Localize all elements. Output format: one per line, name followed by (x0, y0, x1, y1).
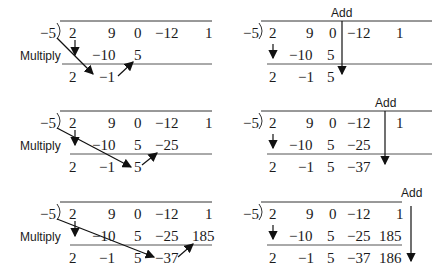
coef-0: 2 (69, 116, 77, 131)
row3-3: −37 (347, 251, 370, 266)
coef-1: 9 (306, 116, 314, 131)
row2-4: 185 (192, 229, 215, 244)
row3-1: −1 (99, 251, 115, 266)
row2-1: −10 (92, 229, 115, 244)
coef-0: 2 (269, 26, 277, 41)
row3-2: 5 (134, 251, 142, 266)
multiply-label: Multiply (20, 50, 61, 62)
row3-3: −37 (155, 251, 178, 266)
row2-3: −25 (155, 138, 178, 153)
coef-3: −12 (347, 116, 370, 131)
row2-2: 5 (134, 138, 142, 153)
divisor: −5 (40, 26, 56, 41)
divisor: −5 (243, 207, 259, 222)
multiply-label: Multiply (20, 140, 61, 152)
add-label: Add (331, 7, 352, 19)
row2-3: −25 (347, 229, 370, 244)
row2-2: 5 (327, 229, 335, 244)
coef-2: 0 (134, 207, 142, 222)
coef-1: 9 (306, 26, 314, 41)
coef-4: 1 (205, 26, 213, 41)
row3-0: 2 (269, 160, 277, 175)
row2-2: 5 (327, 138, 335, 153)
coef-4: 1 (396, 26, 404, 41)
coef-0: 2 (269, 116, 277, 131)
coef-1: 9 (108, 26, 116, 41)
row2-2: 5 (134, 48, 142, 63)
row3-2: 5 (134, 160, 142, 175)
row2-1: −10 (289, 48, 312, 63)
coef-3: −12 (155, 207, 178, 222)
coef-3: −12 (155, 26, 178, 41)
row3-1: −1 (298, 160, 314, 175)
coef-0: 2 (269, 207, 277, 222)
coef-1: 9 (306, 207, 314, 222)
coef-1: 9 (108, 207, 116, 222)
coef-3: −12 (347, 207, 370, 222)
add-label: Add (401, 187, 422, 199)
row3-0: 2 (269, 70, 277, 85)
row3-1: −1 (298, 70, 314, 85)
row3-4: 186 (379, 251, 402, 266)
panel-step1-multiply: −5 2 9 0 −12 1 Multiply −10 5 2 −1 (0, 0, 219, 92)
coef-2: 0 (134, 26, 142, 41)
coef-0: 2 (69, 26, 77, 41)
add-label: Add (375, 97, 396, 109)
panel-step3-multiply: −5 2 9 0 −12 1 Multiply −10 5 −25 185 2 … (0, 181, 219, 273)
divisor: −5 (243, 116, 259, 131)
row2-1: −10 (92, 138, 115, 153)
row2-2: 5 (327, 48, 335, 63)
coef-4: 1 (396, 116, 404, 131)
divisor: −5 (40, 116, 56, 131)
row3-0: 2 (69, 251, 77, 266)
coef-2: 0 (329, 26, 337, 41)
coef-4: 1 (396, 207, 404, 222)
row2-1: −10 (289, 229, 312, 244)
row3-2: 5 (327, 251, 335, 266)
multiply-label: Multiply (20, 231, 61, 243)
row3-3: −37 (347, 160, 370, 175)
row3-1: −1 (298, 251, 314, 266)
coef-4: 1 (205, 207, 213, 222)
row3-2: 5 (327, 70, 335, 85)
row3-0: 2 (269, 251, 277, 266)
row3-2: 5 (327, 160, 335, 175)
row2-3: −25 (155, 229, 178, 244)
divisor: −5 (243, 26, 259, 41)
coef-0: 2 (69, 207, 77, 222)
row2-2: 5 (134, 229, 142, 244)
coef-3: −12 (155, 116, 178, 131)
divisor: −5 (40, 207, 56, 222)
row3-0: 2 (69, 160, 77, 175)
row3-0: 2 (69, 70, 77, 85)
coef-2: 0 (329, 207, 337, 222)
row3-1: −1 (99, 160, 115, 175)
row2-1: −10 (92, 48, 115, 63)
row3-1: −1 (99, 70, 115, 85)
panel-step2-multiply: −5 2 9 0 −12 1 Multiply −10 5 −25 2 −1 5 (0, 90, 219, 182)
row2-4: 185 (379, 229, 402, 244)
coef-2: 0 (329, 116, 337, 131)
panel-step2-add: Add −5 2 9 0 −12 1 −10 5 −25 2 −1 5 −37 (219, 90, 438, 182)
coef-2: 0 (134, 116, 142, 131)
coef-4: 1 (205, 116, 213, 131)
coef-1: 9 (108, 116, 116, 131)
row2-3: −25 (347, 138, 370, 153)
row2-1: −10 (289, 138, 312, 153)
coef-3: −12 (347, 26, 370, 41)
panel-step3-add: Add −5 2 9 0 −12 1 −10 5 −25 185 2 −1 5 … (219, 181, 438, 273)
panel-step1-add: Add −5 2 9 0 −12 1 −10 5 2 −1 5 (219, 0, 438, 92)
